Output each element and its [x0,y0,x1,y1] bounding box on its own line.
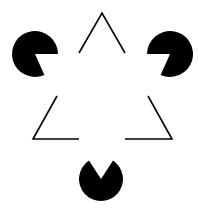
kanizsa-figure: Kanizsa triangle [0,0,198,212]
figure-canvas [0,0,198,212]
